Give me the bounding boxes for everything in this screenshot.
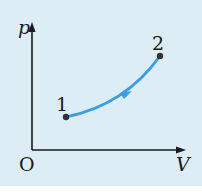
point-2-label: 2	[152, 32, 164, 54]
y-axis-label: p	[18, 16, 30, 38]
point-1-label: 1	[56, 93, 68, 115]
x-axis-label: V	[176, 153, 192, 175]
process-curve	[66, 56, 160, 117]
origin-label: O	[19, 153, 35, 175]
pv-diagram: p V O 1 2	[0, 0, 202, 192]
